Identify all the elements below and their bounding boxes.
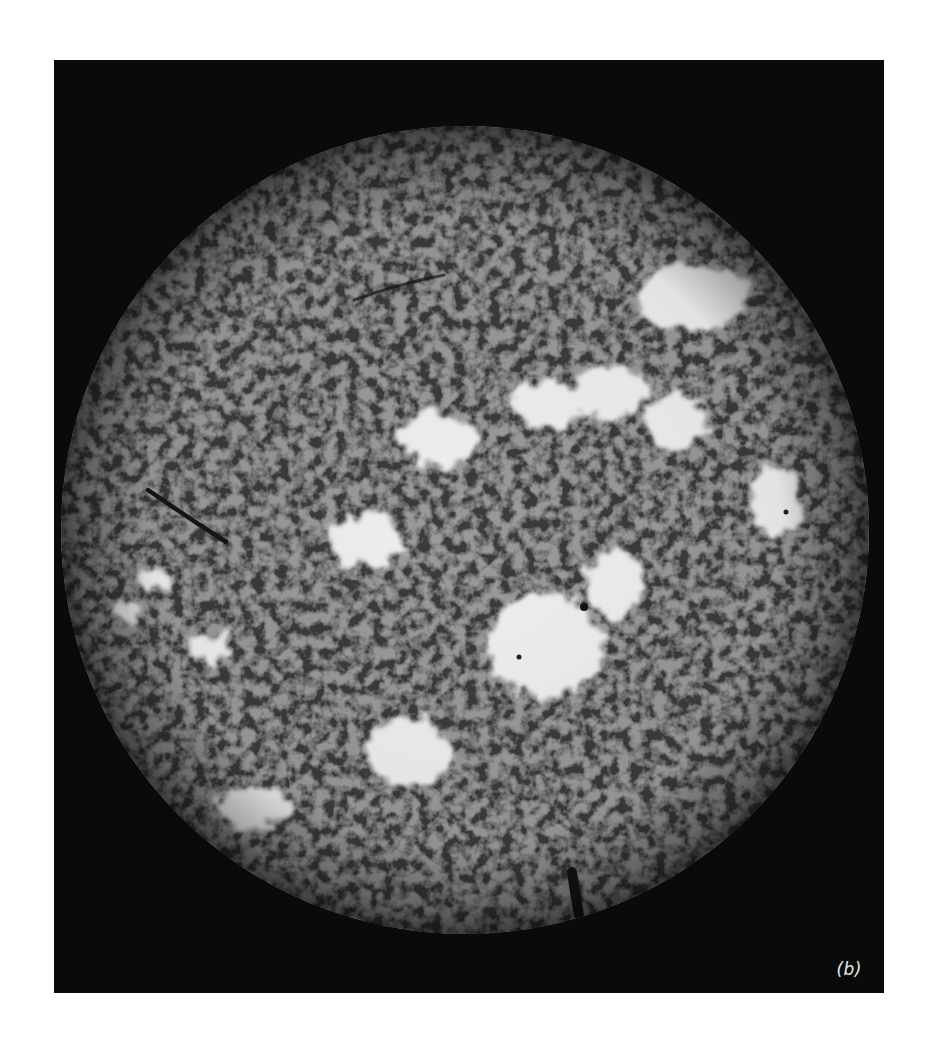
solar-disk-figure: [54, 60, 884, 993]
panel-label: (b): [836, 959, 862, 979]
solar-image-panel: (b): [54, 60, 884, 993]
limb-darkening: [61, 126, 869, 934]
